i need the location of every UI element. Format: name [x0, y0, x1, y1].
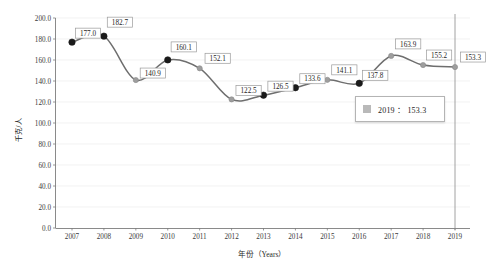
data-point-label-text: 182.7 [112, 19, 129, 27]
data-point-label: 155.2 [426, 50, 451, 60]
data-point-marker[interactable] [133, 77, 138, 82]
x-tick-label: 2016 [352, 233, 367, 241]
tooltip-label: 2019 ： 153.3 [378, 104, 426, 115]
x-tick-label: 2012 [224, 233, 239, 241]
y-tick-label: 160.0 [35, 57, 52, 65]
x-tick-labels: 2007200820092010201120122013201420152016… [65, 233, 463, 241]
tooltip[interactable]: 2019 ： 153.3 [355, 96, 445, 122]
data-point-label-text: 141.1 [336, 67, 353, 75]
x-axis [56, 228, 471, 231]
x-tick-label: 2017 [384, 233, 399, 241]
data-point-label-text: 163.9 [400, 41, 417, 49]
data-point-label-text: 155.2 [431, 52, 448, 60]
x-tick-label: 2018 [416, 233, 431, 241]
y-tick-label: 20.0 [38, 204, 51, 212]
data-point-marker[interactable] [325, 77, 330, 82]
y-tick-label: 80.0 [38, 141, 51, 149]
data-point-label: 133.6 [300, 74, 325, 84]
y-axis-title-text: 千克/人 [14, 117, 23, 141]
data-point-label-text: 140.9 [145, 70, 162, 78]
data-point-marker[interactable] [452, 64, 457, 69]
data-point-label: 141.1 [332, 65, 357, 75]
y-tick-label: 180.0 [35, 36, 52, 44]
data-point-label: 137.8 [363, 70, 388, 80]
y-tick-label: 40.0 [38, 183, 51, 191]
y-tick-label: 200.0 [35, 15, 52, 23]
x-tick-label: 2013 [256, 233, 271, 241]
x-axis-title-text: 年份（Years） [238, 249, 287, 259]
data-point-label-text: 177.0 [80, 30, 97, 38]
data-point-label-text: 137.8 [367, 72, 384, 80]
data-point-labels: 177.0182.7140.9160.1152.1122.5126.5133.6… [75, 17, 485, 95]
data-point-marker[interactable] [420, 62, 425, 67]
tooltip-series-swatch [363, 105, 371, 113]
data-point-label: 163.9 [396, 39, 421, 49]
data-point-label-text: 122.5 [240, 87, 257, 95]
data-point-label: 182.7 [107, 17, 132, 27]
y-tick-label: 60.0 [38, 162, 51, 170]
data-point-label-text: 160.1 [176, 44, 193, 52]
data-point-label: 177.0 [75, 28, 100, 38]
y-tick-label: 0.0 [42, 225, 51, 233]
data-point-marker[interactable] [389, 53, 394, 58]
y-tick-label: 120.0 [35, 99, 52, 107]
x-tick-label: 2007 [65, 233, 80, 241]
data-point-label: 122.5 [236, 85, 261, 95]
y-tick-labels: 0.020.040.060.080.0100.0120.0140.0160.01… [35, 15, 52, 233]
data-point-label: 126.5 [268, 81, 293, 91]
data-point-marker[interactable] [101, 33, 107, 39]
x-tick-label: 2010 [161, 233, 176, 241]
data-point-label: 140.9 [140, 68, 165, 78]
chart-canvas: 0.020.040.060.080.0100.0120.0140.0160.01… [0, 0, 488, 270]
x-tick-label: 2015 [320, 233, 335, 241]
y-tick-label: 100.0 [35, 120, 52, 128]
x-tick-label: 2014 [288, 233, 303, 241]
data-point-label-text: 133.6 [304, 75, 321, 83]
data-point-label: 153.3 [460, 52, 485, 62]
y-axis-title: 千克/人 [14, 117, 23, 141]
data-point-label-text: 126.5 [272, 83, 289, 91]
data-point-marker[interactable] [165, 57, 171, 63]
x-tick-label: 2008 [97, 233, 112, 241]
line-chart: 0.020.040.060.080.0100.0120.0140.0160.01… [0, 0, 488, 270]
x-tick-label: 2009 [129, 233, 144, 241]
x-tick-label: 2011 [193, 233, 208, 241]
x-tick-label: 2019 [448, 233, 463, 241]
data-point-marker[interactable] [197, 66, 202, 71]
data-point-marker[interactable] [229, 97, 234, 102]
y-tick-label: 140.0 [35, 78, 52, 86]
data-point-label-text: 153.3 [465, 54, 482, 62]
y-axis [53, 18, 56, 228]
data-point-label: 160.1 [171, 42, 196, 52]
data-point-marker[interactable] [69, 39, 75, 45]
data-point-marker[interactable] [356, 80, 362, 86]
data-point-label: 152.1 [205, 53, 230, 63]
data-point-label-text: 152.1 [210, 55, 227, 63]
